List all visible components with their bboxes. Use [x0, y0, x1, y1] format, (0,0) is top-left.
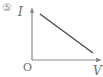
iv-graph-figure: ⑤ I O V — [0, 0, 103, 77]
y-axis-arrow-icon — [30, 7, 34, 13]
x-axis-arrow-icon — [96, 58, 102, 62]
iv-line — [40, 14, 93, 53]
graph-plot — [0, 0, 103, 77]
